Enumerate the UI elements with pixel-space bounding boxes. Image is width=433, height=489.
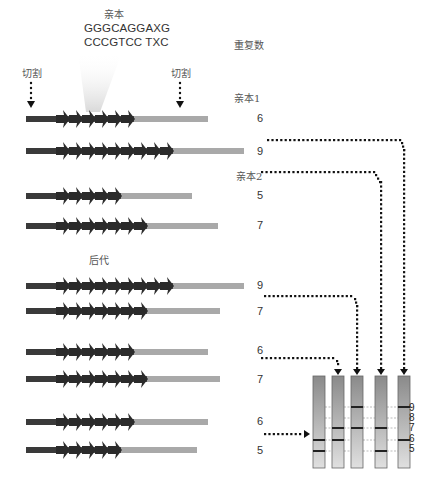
repeat-arrow-icon — [56, 370, 70, 388]
gel-band — [332, 427, 344, 429]
gel-band — [332, 439, 344, 441]
repeat-arrow-icon — [108, 413, 122, 431]
repeat-arrow-icon — [121, 343, 135, 361]
repeat-arrow-icon — [82, 217, 96, 235]
repeat-arrow-icon — [56, 302, 70, 320]
repeat-arrow-icon — [121, 277, 135, 295]
repeat-arrow-icon — [69, 142, 83, 160]
cut-arrow-left-icon — [27, 82, 35, 108]
repeat-arrow-icon — [69, 302, 83, 320]
repeat-arrow-icon — [160, 142, 174, 160]
repeat-arrow-icon — [108, 302, 122, 320]
repeat-arrow-icon — [134, 302, 148, 320]
gel-band — [351, 406, 363, 408]
repeat-arrow-icon — [147, 277, 161, 295]
repeat-arrow-icon — [95, 370, 109, 388]
repeat-arrow-icon — [56, 142, 70, 160]
repeat-arrow-icon — [108, 187, 122, 205]
dna-strand — [26, 277, 244, 295]
repeat-arrow-icon — [56, 413, 70, 431]
zoom-beam — [78, 52, 122, 112]
repeat-arrow-icon — [56, 187, 70, 205]
repeat-arrow-icon — [121, 302, 135, 320]
repeat-arrow-icon — [95, 187, 109, 205]
dna-strand — [26, 217, 218, 235]
repeat-arrow-icon — [69, 277, 83, 295]
cut-arrow-right-icon — [176, 82, 184, 108]
repeat-arrow-icon — [82, 142, 96, 160]
repeat-arrow-icon — [108, 441, 122, 459]
dna-strand — [26, 302, 220, 320]
repeat-arrow-icon — [95, 110, 109, 128]
arrow-down-icon — [377, 369, 385, 375]
arrow-down-icon — [353, 369, 361, 375]
repeat-arrow-icon — [95, 343, 109, 361]
repeat-arrow-icon — [69, 110, 83, 128]
repeat-arrow-icon — [82, 441, 96, 459]
repeat-arrow-icon — [108, 277, 122, 295]
dna-strand — [26, 370, 220, 388]
repeat-arrow-icon — [95, 142, 109, 160]
dna-strand — [26, 110, 208, 128]
repeat-arrow-icon — [134, 217, 148, 235]
repeat-arrow-icon — [56, 441, 70, 459]
repeat-arrow-icon — [108, 370, 122, 388]
repeat-arrow-icon — [95, 217, 109, 235]
arrow-down-icon — [400, 369, 408, 375]
repeat-arrow-icon — [147, 142, 161, 160]
gel-lane — [375, 376, 387, 468]
arrow-down-icon — [334, 369, 342, 375]
gel-lane — [351, 376, 363, 468]
gel-band — [313, 439, 325, 441]
repeat-arrow-icon — [82, 343, 96, 361]
diagram-graphics — [0, 0, 433, 489]
repeat-arrow-icon — [121, 370, 135, 388]
gel-size-label: 5 — [409, 444, 415, 454]
repeat-arrow-icon — [108, 142, 122, 160]
repeat-arrow-icon — [134, 277, 148, 295]
repeat-arrow-icon — [95, 441, 109, 459]
repeat-arrow-icon — [108, 343, 122, 361]
repeat-arrow-icon — [69, 343, 83, 361]
repeat-arrow-icon — [82, 277, 96, 295]
repeat-arrow-icon — [82, 302, 96, 320]
dna-strand — [26, 187, 192, 205]
repeat-arrow-icon — [82, 413, 96, 431]
gel-lane — [332, 376, 344, 468]
repeat-arrow-icon — [56, 110, 70, 128]
gel-band — [351, 427, 363, 429]
repeat-arrow-icon — [69, 370, 83, 388]
repeat-arrow-icon — [160, 277, 174, 295]
repeat-arrow-icon — [82, 187, 96, 205]
repeat-arrow-icon — [69, 217, 83, 235]
repeat-arrow-icon — [56, 217, 70, 235]
arrow-right-icon — [304, 430, 310, 438]
gel-band — [375, 450, 387, 452]
repeat-arrow-icon — [69, 187, 83, 205]
dna-strand — [26, 142, 244, 160]
repeat-arrow-icon — [108, 217, 122, 235]
gel-band — [313, 450, 325, 452]
repeat-arrow-icon — [82, 110, 96, 128]
repeat-arrow-icon — [121, 413, 135, 431]
repeat-arrow-icon — [82, 370, 96, 388]
dna-strand — [26, 441, 197, 459]
dna-strand — [26, 343, 208, 361]
repeat-arrow-icon — [56, 277, 70, 295]
gel-size-label: 7 — [409, 423, 415, 433]
repeat-arrow-icon — [134, 370, 148, 388]
repeat-arrow-icon — [95, 302, 109, 320]
repeat-arrow-icon — [121, 142, 135, 160]
dna-strands — [26, 110, 244, 459]
repeat-arrow-icon — [56, 343, 70, 361]
gel-electrophoresis — [313, 376, 412, 468]
repeat-arrow-icon — [121, 110, 135, 128]
gel-lane — [313, 376, 325, 468]
repeat-arrow-icon — [69, 441, 83, 459]
gel-band — [375, 427, 387, 429]
repeat-arrow-icon — [121, 217, 135, 235]
repeat-arrow-icon — [69, 413, 83, 431]
repeat-arrow-icon — [134, 142, 148, 160]
repeat-arrow-icon — [95, 277, 109, 295]
repeat-arrow-icon — [95, 413, 109, 431]
